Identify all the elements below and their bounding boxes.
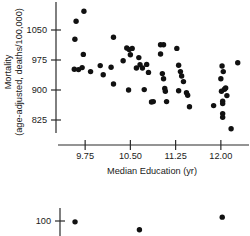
data-point bbox=[111, 81, 116, 86]
data-point bbox=[220, 101, 225, 106]
data-point bbox=[224, 93, 229, 98]
data-point bbox=[73, 19, 78, 24]
y-axis-tick-label: 1050 bbox=[27, 25, 47, 35]
data-point bbox=[98, 63, 103, 68]
x-axis-tick-label: 10.50 bbox=[119, 151, 142, 161]
data-point bbox=[120, 58, 125, 63]
data-point bbox=[176, 62, 181, 67]
data-point bbox=[111, 35, 116, 40]
scatterplot-svg: 1050975900825Mortality(age-adjusted, dea… bbox=[0, 0, 250, 236]
secondary-data-point-group bbox=[72, 214, 225, 232]
data-point bbox=[187, 104, 192, 109]
x-axis-tick-label: 9.75 bbox=[76, 151, 94, 161]
secondary-data-point bbox=[137, 227, 142, 232]
y-axis-title-line2: (age-adjusted, deaths/100,000) bbox=[14, 8, 24, 136]
data-point bbox=[164, 99, 169, 104]
data-point bbox=[163, 89, 168, 94]
data-point bbox=[228, 126, 233, 131]
data-point bbox=[158, 51, 163, 56]
data-point bbox=[128, 52, 133, 57]
data-point bbox=[129, 46, 134, 51]
data-point bbox=[181, 79, 186, 84]
y-axis-tick-label: 825 bbox=[32, 115, 47, 125]
data-point-group bbox=[72, 9, 241, 132]
data-point bbox=[220, 115, 225, 120]
data-point bbox=[146, 70, 151, 75]
secondary-data-point bbox=[220, 214, 225, 219]
data-point bbox=[88, 69, 93, 74]
data-point bbox=[174, 46, 179, 51]
data-point bbox=[108, 65, 113, 70]
data-point bbox=[140, 65, 145, 70]
y-axis-tick-label: 975 bbox=[32, 55, 47, 65]
data-point bbox=[72, 37, 77, 42]
data-point bbox=[136, 55, 141, 60]
x-axis-tick-label: 11.25 bbox=[164, 151, 186, 161]
secondary-y-axis-tick-label: 100 bbox=[36, 216, 51, 226]
data-point bbox=[161, 42, 166, 47]
data-point bbox=[81, 52, 86, 57]
data-point bbox=[223, 85, 228, 90]
data-point bbox=[101, 72, 106, 77]
data-point bbox=[221, 69, 226, 74]
data-point bbox=[179, 73, 184, 78]
scatterplot-figure: 1050975900825Mortality(age-adjusted, dea… bbox=[0, 0, 250, 236]
data-point bbox=[161, 76, 166, 81]
data-point bbox=[144, 62, 149, 67]
secondary-data-point bbox=[72, 219, 77, 224]
data-point bbox=[160, 71, 165, 76]
data-point bbox=[142, 87, 147, 92]
y-axis-tick-label: 900 bbox=[32, 85, 47, 95]
x-axis-title: Median Education (yr) bbox=[107, 166, 197, 176]
data-point bbox=[185, 93, 190, 98]
data-point bbox=[218, 76, 223, 81]
data-point bbox=[211, 103, 216, 108]
data-point bbox=[219, 63, 224, 68]
data-point bbox=[81, 9, 86, 14]
x-axis-tick-label: 12.00 bbox=[209, 151, 232, 161]
data-point bbox=[151, 99, 156, 104]
data-point bbox=[79, 65, 84, 70]
data-point bbox=[176, 88, 181, 93]
data-point bbox=[126, 87, 131, 92]
data-point bbox=[235, 60, 240, 65]
y-axis-title-line1: Mortality bbox=[3, 54, 13, 89]
